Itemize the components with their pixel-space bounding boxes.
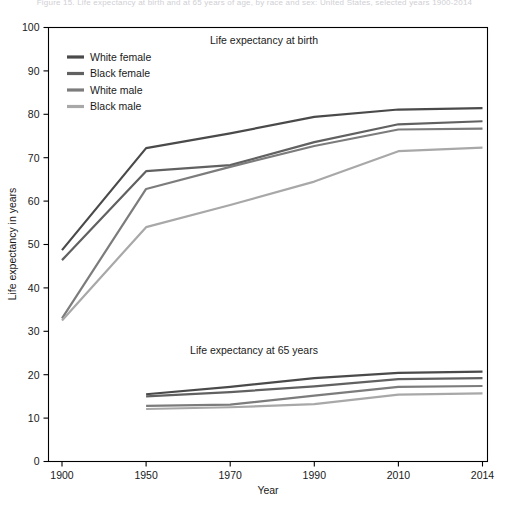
x-axis-ticks [62,462,483,467]
y-tick-label: 20 [28,369,40,381]
panel-label-65: Life expectancy at 65 years [190,344,318,356]
series-lines [62,108,483,409]
y-tick-label: 40 [28,282,40,294]
y-tick-label: 60 [28,195,40,207]
legend-label: White female [90,51,151,63]
panel-label-birth: Life expectancy at birth [210,34,318,46]
chart-figure: Figure 15. Life expectancy at birth and … [0,0,509,512]
x-tick-label: 1950 [134,469,158,481]
y-tick-label: 90 [28,65,40,77]
legend-label: White male [90,84,143,96]
y-tick-label: 100 [22,21,40,33]
y-tick-label: 80 [28,108,40,120]
series-line [146,372,482,395]
y-tick-label: 10 [28,412,40,424]
y-axis-tick-labels: 0102030405060708090100 [22,21,40,467]
y-axis-title: Life expectancy in years [6,188,18,301]
legend-label: Black male [90,100,142,112]
x-tick-label: 1970 [219,469,243,481]
chart-legend: White femaleBlack femaleWhite maleBlack … [67,51,151,113]
x-axis-title: Year [257,484,279,496]
y-axis-ticks [44,28,49,462]
x-tick-label: 2010 [387,469,411,481]
line-chart-canvas: 0102030405060708090100 19001950197019902… [0,0,509,512]
x-tick-label: 1990 [303,469,327,481]
series-line [62,129,483,319]
y-tick-label: 30 [28,325,40,337]
legend-label: Black female [90,67,150,79]
series-line [62,121,483,260]
x-tick-label: 1900 [50,469,74,481]
y-tick-label: 70 [28,152,40,164]
x-tick-label: 2014 [471,469,495,481]
y-tick-label: 0 [34,455,40,467]
y-tick-label: 50 [28,238,40,250]
x-axis-tick-labels: 190019501970199020102014 [50,469,494,481]
